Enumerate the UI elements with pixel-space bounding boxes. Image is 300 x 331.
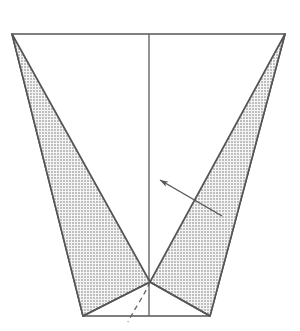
technical-drawing (0, 0, 300, 331)
figure-canvas (0, 0, 300, 331)
